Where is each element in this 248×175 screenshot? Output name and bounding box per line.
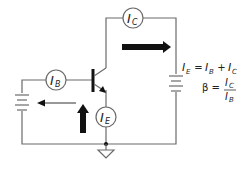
svg-text:+: +: [214, 62, 229, 73]
circuit-wires: [22, 18, 176, 144]
base-current-arrow: [37, 100, 76, 107]
beta-equation: β = I C I B: [202, 77, 236, 104]
meter-ic: I C: [123, 8, 143, 28]
svg-text:I: I: [127, 11, 131, 26]
svg-text:I: I: [225, 91, 228, 102]
base-battery-icon: [14, 93, 30, 111]
svg-text:I: I: [205, 61, 208, 74]
emitter-current-arrow: [77, 104, 89, 133]
svg-text:B: B: [55, 80, 61, 89]
ground-icon: [98, 150, 114, 158]
svg-text:B: B: [229, 96, 234, 104]
collector-battery-icon: [168, 74, 184, 92]
svg-text:C: C: [232, 68, 237, 76]
transistor-collector: [94, 68, 106, 76]
meter-ie: I E: [96, 107, 116, 127]
npn-transistor: [93, 68, 106, 93]
svg-text:I: I: [228, 61, 231, 74]
svg-text:C: C: [132, 18, 138, 27]
svg-text:I: I: [182, 61, 185, 74]
emitter-current-equation: I E = I B + I C: [182, 61, 237, 76]
svg-text:=: =: [191, 62, 206, 73]
svg-text:C: C: [229, 82, 234, 90]
transistor-circuit-diagram: I C I B I E: [0, 0, 248, 175]
svg-text:β =: β =: [202, 82, 223, 93]
emitter-arrowhead-icon: [99, 86, 106, 93]
svg-text:I: I: [225, 77, 228, 88]
svg-text:I: I: [50, 73, 54, 88]
collector-current-arrow: [122, 41, 171, 53]
meter-ib: I B: [46, 70, 66, 90]
svg-text:I: I: [100, 110, 104, 125]
